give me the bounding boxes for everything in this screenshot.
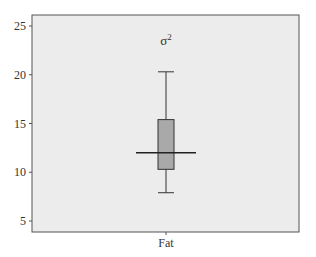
iqr-box	[158, 120, 174, 170]
x-axis: Fat	[158, 232, 174, 250]
y-tick-label: 5	[20, 214, 26, 228]
y-tick-label: 10	[14, 165, 26, 179]
y-tick-label: 25	[14, 19, 26, 33]
y-tick-label: 15	[14, 117, 26, 131]
x-tick-label: Fat	[158, 236, 174, 250]
y-axis: 510152025	[14, 19, 32, 228]
box-plot: 510152025 σ2 Fat	[0, 0, 316, 257]
y-tick-label: 20	[14, 68, 26, 82]
